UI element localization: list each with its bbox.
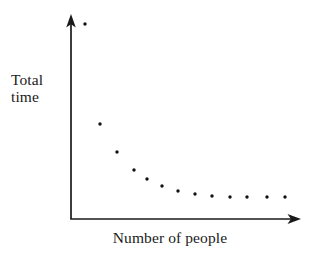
data-point [210,194,213,197]
data-point [265,195,268,198]
data-point [98,122,101,125]
figure-root: Total time Number of people [0,0,318,259]
y-axis-label: Total time [11,72,43,105]
x-axis-label: Number of people [11,230,318,247]
data-point [245,195,248,198]
data-point [83,22,86,25]
data-point [132,168,135,171]
data-point [193,192,196,195]
y-axis-label-line-1: Total [11,72,43,89]
data-point [145,177,148,180]
data-point [115,150,118,153]
scatter-plot-canvas [0,0,318,259]
data-point [160,184,163,187]
data-point [176,189,179,192]
data-point [283,195,286,198]
y-axis-label-line-2: time [11,89,43,106]
plot-background [0,0,318,259]
data-point [228,195,231,198]
